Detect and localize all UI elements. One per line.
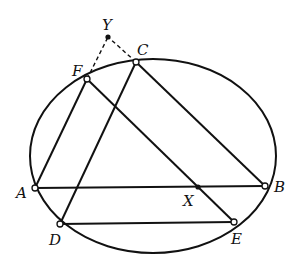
label-a: A (14, 184, 27, 202)
point-d (57, 221, 63, 227)
point-a (32, 185, 38, 191)
label-e: E (230, 230, 242, 248)
label-b: B (273, 178, 285, 196)
label-f: F (71, 62, 83, 80)
point-b (262, 183, 268, 189)
point-e (231, 219, 237, 225)
point-x (195, 184, 200, 189)
segment-af (35, 79, 87, 188)
point-y (105, 34, 110, 39)
segment-cy (108, 37, 136, 62)
segments-group (35, 37, 265, 224)
segment-cb (136, 62, 265, 186)
segment-ab (35, 186, 265, 188)
label-x: X (182, 192, 195, 210)
segment-cd (60, 62, 136, 224)
label-c: C (137, 41, 149, 59)
segment-fy (87, 37, 108, 79)
segment-fe (87, 79, 234, 222)
points-group (32, 34, 268, 227)
segment-de (60, 222, 234, 224)
label-d: D (48, 231, 61, 249)
point-c (133, 59, 139, 65)
geometry-diagram: ABCDEFXY (0, 0, 297, 260)
point-f (84, 76, 90, 82)
label-y: Y (102, 16, 114, 34)
